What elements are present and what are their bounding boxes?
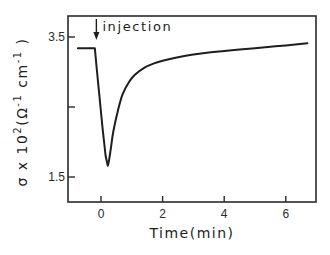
x-tick-label: 0 [98,207,105,221]
x-tick-label: 4 [221,207,228,221]
chart: 0246 1.53.5 injection Time(min) σ x 102(… [0,0,330,255]
y-tick-label: 3.5 [48,30,65,44]
injection-annotation: injection [93,19,172,40]
x-axis-title: Time(min) [148,225,234,241]
injection-label: injection [102,19,172,34]
y-tick-label: 1.5 [48,170,65,184]
y-axis-title: σ x 102(Ω-1 cm-1 ) [12,37,30,186]
conductivity-curve [78,43,307,166]
x-axis-ticks: 0246 [98,196,290,221]
svg-text:σ x 102(Ω-1 cm-1 ): σ x 102(Ω-1 cm-1 ) [12,37,30,186]
plot-frame [68,16,316,202]
x-tick-label: 6 [282,207,289,221]
y-axis-ticks: 1.53.5 [48,30,75,184]
arrow-head-icon [93,32,99,40]
x-tick-label: 2 [159,207,166,221]
